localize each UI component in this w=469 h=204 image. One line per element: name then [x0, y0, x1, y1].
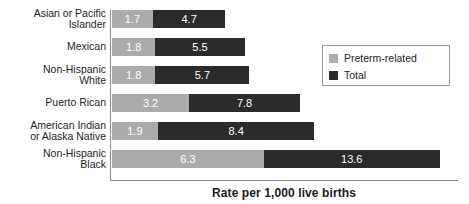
bar-segment-total — [153, 10, 225, 28]
category-label: American Indian or Alaska Native — [2, 120, 106, 143]
category-label: Non-Hispanic Black — [2, 148, 106, 171]
bar-segment-preterm-related — [112, 150, 264, 168]
bar-row: 1.85.5 — [112, 38, 245, 56]
category-label: Mexican — [2, 41, 106, 53]
category-label: Asian or Pacific Islander — [2, 8, 106, 31]
bar-segment-preterm-related — [112, 10, 153, 28]
bar-segment-total — [264, 150, 440, 168]
bar-segment-total — [155, 66, 249, 84]
legend-label-total: Total — [344, 69, 366, 81]
bar-segment-total — [158, 122, 315, 140]
bar-segment-preterm-related — [112, 94, 189, 112]
x-axis-title: Rate per 1,000 live births — [110, 186, 458, 200]
x-axis-line — [110, 180, 458, 181]
bar-segment-total — [189, 94, 300, 112]
legend-label-preterm-related: Preterm-related — [344, 52, 417, 64]
bar-segment-preterm-related — [112, 66, 155, 84]
category-label: Non-Hispanic White — [2, 64, 106, 87]
bar-segment-preterm-related — [112, 38, 155, 56]
category-label: Puerto Rican — [2, 97, 106, 109]
bar-row: 6.313.6 — [112, 150, 440, 168]
bar-chart: Asian or Pacific IslanderMexicanNon-Hisp… — [0, 0, 469, 204]
bar-segment-preterm-related — [112, 122, 158, 140]
category-labels: Asian or Pacific IslanderMexicanNon-Hisp… — [0, 10, 106, 180]
bar-row: 1.98.4 — [112, 122, 314, 140]
plot-area: 1.74.71.85.51.85.73.27.81.98.46.313.6 — [110, 10, 458, 180]
legend-swatch-preterm-related — [329, 54, 338, 63]
legend-swatch-total — [329, 71, 338, 80]
chart-legend: Preterm-related Total — [322, 45, 450, 86]
legend-item-total: Total — [329, 67, 443, 83]
bar-segment-total — [155, 38, 244, 56]
legend-item-preterm-related: Preterm-related — [329, 50, 443, 66]
bar-row: 1.85.7 — [112, 66, 249, 84]
bar-row: 3.27.8 — [112, 94, 300, 112]
bar-row: 1.74.7 — [112, 10, 225, 28]
